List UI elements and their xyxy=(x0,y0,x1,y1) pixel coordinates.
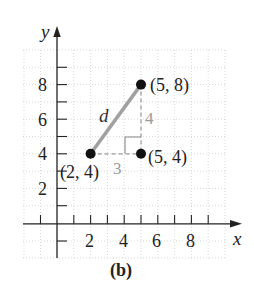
point-5-4 xyxy=(136,149,146,159)
vertical-leg-label: 4 xyxy=(145,109,154,128)
y-tick-label-2: 2 xyxy=(38,179,47,199)
y-tick-label-6: 6 xyxy=(38,110,47,130)
point-label-5-8: (5, 8) xyxy=(150,75,189,96)
point-label-2-4: (2, 4) xyxy=(60,162,99,183)
distance-diagram: y x 8 6 4 2 2 4 6 8 (5, 8) (5, 4) (2, 4)… xyxy=(0,0,254,297)
y-ticks xyxy=(57,67,67,241)
point-label-5-4: (5, 4) xyxy=(148,147,187,168)
y-tick-label-4: 4 xyxy=(38,144,47,164)
y-axis-arrow-icon xyxy=(53,26,60,37)
x-axis-label: x xyxy=(232,228,242,249)
x-ticks xyxy=(41,215,209,224)
horizontal-leg-label: 3 xyxy=(113,159,122,178)
x-tick-label-8: 8 xyxy=(186,231,195,251)
distance-label: d xyxy=(99,105,109,126)
x-axis-arrow-icon xyxy=(230,220,242,228)
grid xyxy=(23,50,225,258)
x-tick-label-2: 2 xyxy=(85,231,94,251)
y-axis-label: y xyxy=(39,21,50,42)
point-2-4 xyxy=(86,149,96,159)
point-5-8 xyxy=(136,80,146,90)
y-tick-label-8: 8 xyxy=(38,75,47,95)
figure-caption: (b) xyxy=(110,260,132,281)
x-tick-label-6: 6 xyxy=(152,231,161,251)
axes xyxy=(23,26,242,258)
x-tick-label-4: 4 xyxy=(119,231,128,251)
